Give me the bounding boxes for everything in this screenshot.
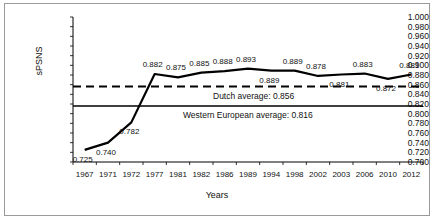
data-point-label: 0.881	[329, 80, 349, 89]
data-point-label: 0.881	[399, 61, 419, 70]
data-point-label: 0.782	[119, 127, 139, 136]
data-point-label: 0.889	[259, 76, 279, 85]
chart-plot-area: sPSNS 1.0000.9800.9600.9400.9200.9000.88…	[5, 4, 429, 215]
data-point-label: 0.875	[166, 63, 186, 72]
data-point-label: 0.883	[353, 60, 373, 69]
chart-frame: sPSNS 1.0000.9800.9600.9400.9200.9000.88…	[4, 3, 430, 216]
data-point-label: 0.872	[376, 84, 396, 93]
data-point-label: 0.888	[213, 57, 233, 66]
data-point-label: 0.740	[96, 148, 116, 157]
western-european-average-label: Western European average: 0.816	[183, 110, 313, 120]
data-point-label: 0.882	[143, 60, 163, 69]
data-point-label: 0.725	[73, 155, 93, 164]
x-axis-title: Years	[5, 190, 429, 200]
data-point-label: 0.889	[283, 57, 303, 66]
data-point-label: 0.885	[189, 59, 209, 68]
data-point-label: 0.893	[236, 55, 256, 64]
data-point-label: 0.878	[306, 62, 326, 71]
dutch-average-label: Dutch average: 0.856	[213, 91, 294, 101]
